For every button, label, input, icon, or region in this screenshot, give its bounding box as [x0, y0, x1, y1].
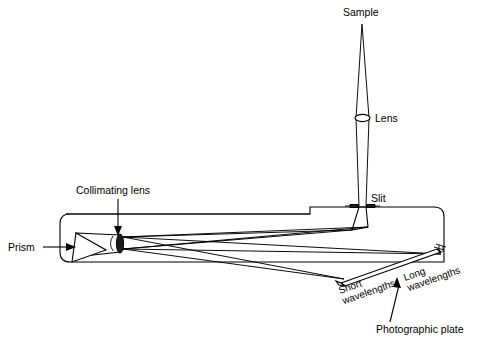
diagram-canvas: Sample Lens Slit Collimating lens Prism … [0, 0, 479, 352]
label-sample: Sample [343, 6, 379, 18]
label-lens: Lens [375, 112, 398, 124]
label-short-wavelengths: Short wavelengths [336, 267, 397, 307]
slit-beam-wedge [352, 207, 368, 230]
lens [355, 114, 370, 121]
prism-spectrograph-diagram: Sample Lens Slit Collimating lens Prism … [0, 0, 479, 352]
label-prism-text: Prism [8, 241, 35, 253]
label-prism: Prism [8, 241, 76, 253]
label-collimating-lens-text: Collimating lens [76, 184, 150, 196]
label-collimating-lens: Collimating lens [76, 184, 150, 236]
label-lens-text: Lens [375, 112, 398, 124]
ray-bundle-collimator-to-plate [123, 237, 441, 279]
label-slit: Slit [371, 192, 386, 204]
label-sample-text: Sample [343, 6, 379, 18]
label-slit-text: Slit [371, 192, 386, 204]
ray-bundle-slit-to-collimator [123, 227, 368, 249]
label-photographic-plate-text: Photographic plate [376, 323, 464, 335]
prism-assembly [72, 233, 124, 262]
